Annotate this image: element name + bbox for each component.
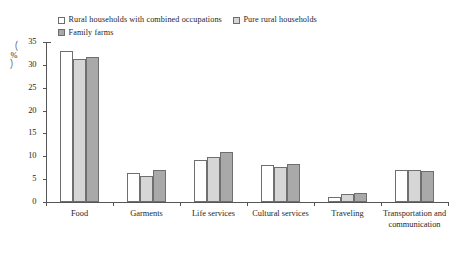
y-tick-label-5: 5 bbox=[32, 175, 36, 183]
legend-row-2: Family farms bbox=[58, 27, 398, 40]
bar-group-5 bbox=[392, 42, 438, 202]
bar bbox=[73, 59, 86, 202]
x-axis-label-4: Traveling bbox=[314, 209, 381, 220]
chart-legend: Rural households with combined occupatio… bbox=[58, 14, 398, 39]
bar bbox=[60, 51, 73, 202]
legend-row-1: Rural households with combined occupatio… bbox=[58, 14, 398, 27]
bar bbox=[207, 157, 220, 202]
bar-group-0 bbox=[57, 42, 103, 202]
x-tick-0 bbox=[113, 202, 114, 206]
legend-item-2: Family farms bbox=[58, 27, 114, 40]
bar-chart: Rural households with combined occupatio… bbox=[0, 0, 463, 253]
legend-swatch-icon-1 bbox=[233, 17, 240, 24]
legend-label-2: Family farms bbox=[69, 27, 114, 40]
legend-swatch-icon-0 bbox=[58, 17, 65, 24]
bar-group-2 bbox=[191, 42, 237, 202]
y-tick-label-30: 30 bbox=[28, 61, 36, 69]
bar-group-1 bbox=[124, 42, 170, 202]
bar bbox=[140, 176, 153, 202]
bar-group-4 bbox=[325, 42, 371, 202]
y-tick-label-25: 25 bbox=[28, 84, 36, 92]
x-axis-category-labels: FoodGarmentsLife servicesCultural servic… bbox=[46, 209, 448, 253]
legend-item-1: Pure rural households bbox=[233, 14, 317, 27]
bar bbox=[153, 170, 166, 202]
legend-item-0: Rural households with combined occupatio… bbox=[58, 14, 222, 27]
x-tick-5 bbox=[448, 202, 449, 206]
bar-group-3 bbox=[258, 42, 304, 202]
bar bbox=[408, 170, 421, 202]
bar bbox=[395, 170, 408, 202]
y-axis-unit-close-paren: ） bbox=[6, 58, 22, 70]
y-axis-unit-open-paren: （ bbox=[6, 40, 22, 52]
x-axis-label-2: Life services bbox=[180, 209, 247, 220]
x-tick-1 bbox=[180, 202, 181, 206]
bar bbox=[274, 167, 287, 202]
bar bbox=[354, 193, 367, 202]
bar bbox=[287, 164, 300, 202]
bar bbox=[421, 171, 434, 202]
legend-label-1: Pure rural households bbox=[243, 14, 317, 27]
bar bbox=[261, 165, 274, 202]
y-tick-label-20: 20 bbox=[28, 107, 36, 115]
bar bbox=[127, 173, 140, 202]
x-axis-label-1: Garments bbox=[113, 209, 180, 220]
plot-area: 05101520253035 bbox=[46, 42, 448, 203]
bar bbox=[341, 194, 354, 202]
y-axis-unit-label: （ % ） bbox=[6, 42, 22, 69]
x-tick-3 bbox=[314, 202, 315, 206]
bar bbox=[86, 57, 99, 202]
x-axis-label-0: Food bbox=[46, 209, 113, 220]
y-tick-label-10: 10 bbox=[28, 152, 36, 160]
bar bbox=[328, 197, 341, 202]
y-tick-label-35: 35 bbox=[28, 38, 36, 46]
y-tick-label-0: 0 bbox=[32, 198, 36, 206]
x-tick-2 bbox=[247, 202, 248, 206]
bar-groups bbox=[46, 42, 448, 202]
bar bbox=[220, 152, 233, 202]
x-axis-label-5: Transportation and communication bbox=[381, 209, 448, 230]
x-tick-origin bbox=[46, 202, 47, 206]
bar bbox=[194, 160, 207, 202]
x-tick-4 bbox=[381, 202, 382, 206]
legend-label-0: Rural households with combined occupatio… bbox=[69, 14, 222, 27]
x-axis-label-3: Cultural services bbox=[247, 209, 314, 220]
y-tick-label-15: 15 bbox=[28, 129, 36, 137]
legend-swatch-icon-2 bbox=[58, 29, 65, 36]
